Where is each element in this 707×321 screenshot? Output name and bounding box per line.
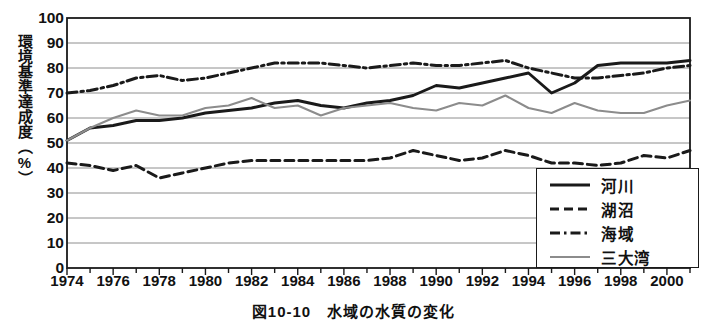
series-line-河川 [67,61,690,141]
figure-caption: 図10-10 水域の水質の変化 [0,300,707,321]
legend-label: 湖沼 [601,198,634,220]
legend-swatch-三大湾 [549,251,591,263]
x-axis-tick-1990: 1990 [413,272,459,289]
x-axis-tick-1980: 1980 [182,272,228,289]
legend-item-三大湾: 三大湾 [537,245,698,269]
legend-swatch-海域 [549,227,591,239]
x-axis-tick-1976: 1976 [90,272,136,289]
y-axis-tick-40: 40 [20,159,64,177]
legend-label: 海域 [601,222,634,244]
x-axis-tick-1978: 1978 [136,272,182,289]
y-axis-tick-80: 80 [20,59,64,77]
legend-label: 河川 [601,174,634,196]
y-axis-tick-90: 90 [20,34,64,52]
y-axis-tick-70: 70 [20,84,64,102]
x-axis-tick-1992: 1992 [459,272,505,289]
legend-item-海域: 海域 [537,221,698,245]
chart-legend: 河川湖沼海域三大湾 [536,168,699,268]
x-axis-tick-1996: 1996 [552,272,598,289]
y-axis-tick-20: 20 [20,209,64,227]
x-axis-tick-1986: 1986 [321,272,367,289]
x-axis-tick-2000: 2000 [644,272,690,289]
legend-item-湖沼: 湖沼 [537,197,698,221]
x-axis-tick-1984: 1984 [275,272,321,289]
x-axis-tick-1998: 1998 [598,272,644,289]
legend-swatch-河川 [549,179,591,191]
y-axis-tick-10: 10 [20,234,64,252]
legend-label: 三大湾 [601,246,651,268]
y-axis-tick-60: 60 [20,109,64,127]
data-series-layer [67,61,690,179]
x-axis-tick-1974: 1974 [44,272,90,289]
x-axis-tick-labels: 1974197619781980198219841986198819901992… [0,272,707,294]
y-axis-tick-100: 100 [20,9,64,27]
y-axis-tick-50: 50 [20,134,64,152]
x-axis-tick-1994: 1994 [505,272,551,289]
x-axis-tick-1982: 1982 [229,272,275,289]
x-axis-tick-1988: 1988 [367,272,413,289]
legend-swatch-湖沼 [549,203,591,215]
legend-item-河川: 河川 [537,173,698,197]
y-axis-tick-30: 30 [20,184,64,202]
